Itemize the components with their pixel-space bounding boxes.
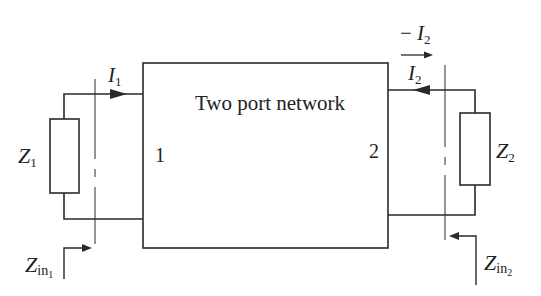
left-circuit	[50, 79, 143, 279]
i1-arrow-icon	[110, 89, 127, 99]
i1-label: I1	[107, 63, 122, 89]
minus-i2-arrow-icon	[424, 52, 433, 59]
port-label-2: 2	[369, 140, 379, 162]
minus-i2-label: − I2	[400, 21, 431, 47]
zin1-arrow-icon	[82, 244, 92, 252]
z2-resistor	[460, 113, 490, 185]
right-bottom-wire	[388, 185, 475, 215]
zin1-arrow-line	[64, 248, 85, 279]
right-circuit	[388, 52, 490, 286]
zin2-arrow-icon	[449, 232, 459, 240]
i2-label: I2	[407, 61, 422, 87]
right-top-wire	[388, 90, 475, 113]
two-port-network-diagram: Two port network 1 2 I1 Z1 Zin1 − I2 I2	[0, 0, 541, 296]
left-bottom-wire	[64, 193, 143, 219]
z1-resistor	[50, 119, 79, 193]
z2-label: Z2	[496, 138, 515, 165]
port-label-1: 1	[155, 144, 165, 166]
left-top-wire	[64, 94, 143, 119]
box-title: Two port network	[195, 91, 346, 115]
zin1-label: Zin1	[25, 252, 53, 280]
z1-label: Z1	[18, 143, 37, 170]
zin2-label: Zin2	[484, 250, 512, 278]
zin2-arrow-line	[456, 236, 476, 285]
